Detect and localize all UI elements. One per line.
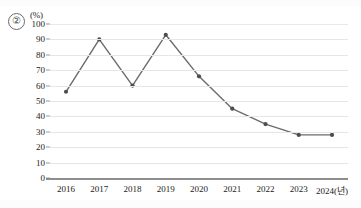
y-axis-tick-mark [46,70,50,71]
x-axis-tick-label: 2020 [190,184,208,194]
gridline [50,24,348,25]
data-point-marker [297,133,301,137]
y-axis-tick-label: 30 [19,127,45,137]
scan-artifact-top [0,0,361,6]
y-axis-tick-label: 0 [19,173,45,183]
data-point-marker [230,107,234,111]
x-axis-tick-label: 2017 [90,184,108,194]
x-axis-tick-label: 2018 [124,184,142,194]
gridline [50,70,348,71]
gridline [50,101,348,102]
x-axis-line [46,178,348,180]
y-axis-tick-label: 40 [19,111,45,121]
gridline [50,116,348,117]
x-axis-tick-label: 2019 [157,184,175,194]
gridline [50,147,348,148]
data-point-marker [164,33,168,37]
scan-artifact-bottom [0,200,361,208]
data-point-marker [330,133,334,137]
y-axis-tick-label: 70 [19,65,45,75]
y-axis-tick-mark [46,39,50,40]
y-axis-tick-label: 100 [19,19,45,29]
y-axis-tick-mark [46,131,50,132]
y-axis-tick-mark [46,24,50,25]
y-axis-tick-mark [46,162,50,163]
data-point-marker [197,74,201,78]
x-axis-tick-label: 2022 [257,184,275,194]
y-axis-tick-mark [46,101,50,102]
y-axis-tick-mark [46,147,50,148]
gridline [50,39,348,40]
data-point-marker [64,90,68,94]
plot-area: 0102030405060708090100201620172018201920… [50,24,348,178]
data-point-marker [263,122,267,126]
x-axis-tick-label: 2024(년) [316,184,348,197]
x-axis-tick-label: 2016 [57,184,75,194]
gridline [50,55,348,56]
y-axis-tick-label: 20 [19,142,45,152]
y-axis-tick-mark [46,85,50,86]
gridline [50,132,348,133]
y-axis-tick-mark [46,116,50,117]
y-axis-tick-mark [46,54,50,55]
y-axis-tick-label: 10 [19,158,45,168]
gridline [50,163,348,164]
chart-figure: ② (%) 0102030405060708090100201620172018… [0,0,361,208]
y-axis-tick-label: 80 [19,50,45,60]
y-axis-tick-label: 50 [19,96,45,106]
x-axis-tick-label: 2023 [290,184,308,194]
x-axis-tick-label: 2021 [223,184,241,194]
gridline [50,86,348,87]
y-axis-tick-label: 90 [19,34,45,44]
y-axis-tick-label: 60 [19,81,45,91]
